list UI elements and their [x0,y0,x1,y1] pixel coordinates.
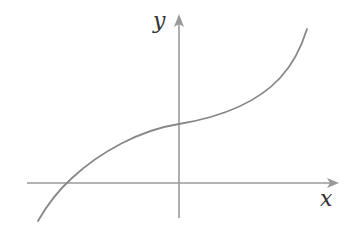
x-axis-label: x [320,188,332,210]
graph-plot [0,0,350,234]
function-curve [38,29,307,221]
y-axis-label: y [153,10,165,32]
function-graph: y x [0,0,350,234]
